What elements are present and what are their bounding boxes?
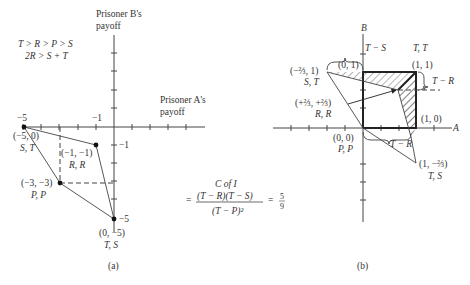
condition-1: T > R > P > S	[18, 39, 73, 49]
formula-title: C of I	[215, 179, 237, 189]
coord-st-a: (−5, 0)	[13, 131, 39, 142]
coord-ts-b: (1, −⅔)	[419, 159, 447, 170]
coord-rr-b: (+⅔, +⅔)	[295, 98, 331, 109]
brace-right	[418, 72, 428, 90]
caption-b: (b)	[357, 261, 368, 272]
formula-numerator: (T − R)(T − S)	[197, 191, 253, 202]
x-axis-label-b: A	[452, 123, 459, 133]
brace-top-label: T − S	[365, 43, 386, 53]
result-denominator: 9	[280, 202, 284, 211]
x-axis-label-1: Prisoner A's	[160, 95, 206, 105]
result-numerator: 5	[280, 192, 284, 201]
y-axis-label-2: payoff	[96, 21, 121, 31]
x-axis-label-2: payoff	[160, 107, 185, 117]
coord-rr-a: (−1, −1)	[61, 148, 92, 159]
caption-a: (a)	[108, 261, 119, 272]
label-rr-b: R, R	[314, 109, 332, 119]
coord-10-b: (1, 0)	[421, 114, 442, 125]
arrow-to-rr	[348, 90, 396, 104]
y-axis-label-b: B	[361, 23, 367, 33]
coord-st-b: (−⅔, 1)	[290, 66, 318, 77]
label-st-a: S, T	[20, 143, 36, 153]
tick-label-y-minus1: −1	[119, 140, 129, 150]
brace-right-label: T − R	[432, 76, 454, 86]
panel-a: Prisoner B's payoff Prisoner A's payoff …	[13, 9, 206, 272]
label-st-b: S, T	[304, 77, 320, 87]
label-rr-a: R, R	[68, 160, 86, 170]
label-tt-b: T, T	[413, 43, 428, 53]
label-ts-a: T, S	[104, 240, 118, 250]
point-pp-a	[58, 181, 63, 186]
coord-00-b: (0, 0)	[333, 133, 354, 144]
brace-bottom-label: T − R	[390, 139, 412, 149]
coord-11-b: (1, 1)	[412, 60, 433, 71]
formula-equals: =	[186, 195, 191, 205]
coord-pp-a: (−3, −3)	[21, 178, 52, 189]
tick-label-x-minus1: −1	[92, 113, 102, 123]
formula-denominator: (T − P)²	[212, 206, 243, 217]
point-st-a	[22, 125, 27, 130]
result-equals: =	[268, 195, 273, 205]
coord-01-b: (0, 1)	[338, 60, 359, 71]
tick-label-y-minus5: −5	[119, 214, 129, 224]
figure-canvas: Prisoner B's payoff Prisoner A's payoff …	[0, 0, 470, 285]
label-pp-a: P, P	[30, 190, 46, 200]
formula: C of I = (T − R)(T − S) (T − P)² = 5 9	[186, 179, 285, 217]
y-axis-label-1: Prisoner B's	[96, 9, 142, 19]
point-rr-a	[94, 143, 99, 148]
tick-label-x-minus5: −5	[17, 113, 27, 123]
panel-b: B A T − S T − R T − R (0, 1) (1, 1) T, T…	[273, 23, 459, 272]
label-pp-b: P, P	[337, 144, 353, 154]
condition-2: 2R > S + T	[25, 51, 69, 61]
point-ts-a	[112, 217, 117, 222]
label-ts-b: T, S	[428, 171, 442, 181]
coord-ts-a: (0, −5)	[99, 228, 125, 239]
